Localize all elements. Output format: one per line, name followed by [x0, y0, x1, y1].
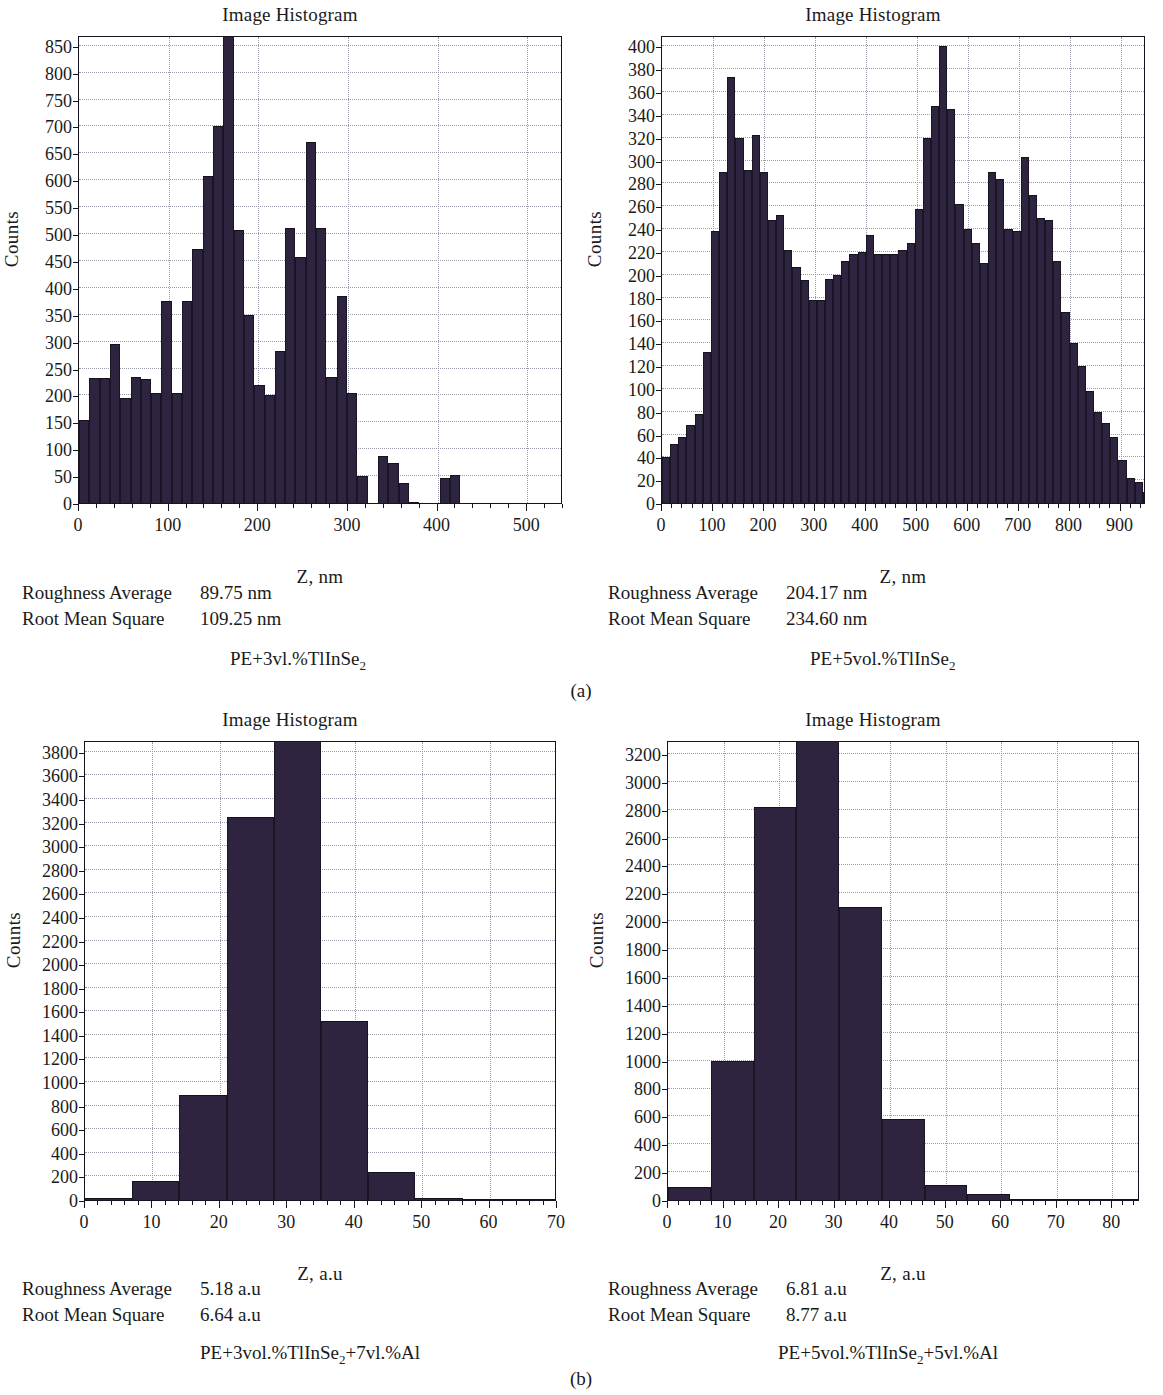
x-tick-major: [834, 1201, 835, 1208]
sample-name-tail: +5vl.%Al: [923, 1342, 998, 1363]
y-tick-mark: [79, 918, 84, 919]
y-tick-label: 3600: [42, 767, 78, 785]
y-tick-mark: [79, 942, 84, 943]
x-tick-minor: [702, 504, 703, 508]
x-tick-minor: [329, 504, 330, 508]
x-tick-label: 400: [423, 516, 450, 534]
y-tick-label: 200: [51, 1168, 78, 1186]
y-tick-label: 1000: [42, 1074, 78, 1092]
plot-title: Image Histogram: [0, 709, 580, 731]
x-tick-minor: [275, 504, 276, 508]
x-tick-major: [1000, 1201, 1001, 1208]
x-axis-ticks: 0100200300400500600700800900: [661, 516, 1145, 540]
histogram-bar: [996, 179, 1004, 503]
histogram-bar: [923, 138, 931, 503]
y-tick-mark: [662, 1062, 667, 1063]
x-tick-minor: [111, 1201, 112, 1205]
x-tick-label: 300: [800, 516, 827, 534]
stats-value-roughness-average: 204.17 nm: [786, 580, 867, 606]
y-tick-mark: [656, 344, 661, 345]
histogram-bar: [1110, 437, 1118, 503]
x-tick-minor: [773, 504, 774, 508]
histogram-bar: [668, 1187, 711, 1200]
y-tick-mark: [656, 47, 661, 48]
x-tick-major: [778, 1201, 779, 1208]
histogram-bar: [1053, 1199, 1096, 1200]
histogram-bar: [357, 476, 367, 503]
y-tick-mark: [79, 1154, 84, 1155]
y-tick-label: 100: [628, 381, 655, 399]
y-tick-label: 600: [634, 1108, 661, 1126]
histogram-bar: [931, 106, 939, 503]
y-tick-label: 1400: [625, 997, 661, 1015]
y-axis-tickmarks: [655, 36, 661, 504]
y-tick-mark: [656, 276, 661, 277]
gridline-horizontal: [668, 948, 1138, 949]
y-tick-label: 40: [637, 449, 655, 467]
stats-row-root-mean-square: Root Mean Square 8.77 a.u: [608, 1302, 847, 1328]
x-tick-minor: [956, 504, 957, 508]
x-tick-major: [151, 1201, 152, 1208]
x-tick-major: [814, 504, 815, 511]
x-tick-label: 700: [1004, 516, 1031, 534]
y-tick-mark: [73, 74, 78, 75]
x-tick-minor: [1011, 1201, 1012, 1205]
y-tick-mark: [656, 139, 661, 140]
x-tick-minor: [293, 504, 294, 508]
x-tick-minor: [987, 504, 988, 508]
gridline-horizontal: [668, 809, 1138, 810]
y-tick-mark: [662, 811, 667, 812]
histogram-bar: [1004, 229, 1012, 503]
x-tick-minor: [977, 504, 978, 508]
y-tick-label: 200: [628, 267, 655, 285]
histogram-bar: [132, 1181, 179, 1200]
x-tick-major: [489, 1201, 490, 1208]
x-axis-tickmarks: [78, 504, 562, 514]
y-tick-mark: [656, 207, 661, 208]
gridline-horizontal: [662, 68, 1144, 69]
y-tick-label: 280: [628, 175, 655, 193]
y-tick-mark: [73, 101, 78, 102]
histogram-bar: [1061, 312, 1069, 503]
histogram-bar: [89, 378, 99, 503]
histogram-bar: [898, 250, 906, 503]
histogram-bar: [776, 215, 784, 503]
histogram-bar: [866, 235, 874, 503]
x-tick-major: [865, 504, 866, 511]
y-axis-ticks: 0200400600800100012001400160018002000220…: [603, 741, 661, 1201]
x-tick-minor: [435, 1201, 436, 1205]
x-tick-label: 400: [851, 516, 878, 534]
x-tick-label: 300: [333, 516, 360, 534]
gridline-vertical: [527, 37, 528, 503]
histogram-bar: [326, 377, 336, 503]
x-tick-minor: [124, 1201, 125, 1205]
x-tick-minor: [543, 1201, 544, 1205]
gridline-vertical: [422, 742, 423, 1200]
x-axis-tickmarks: [661, 504, 1145, 514]
y-tick-mark: [662, 1173, 667, 1174]
x-tick-minor: [1038, 504, 1039, 508]
x-tick-minor: [508, 504, 509, 508]
x-tick-minor: [734, 1201, 735, 1205]
histogram-bar: [727, 77, 735, 503]
x-tick-minor: [856, 1201, 857, 1205]
x-tick-label: 800: [1055, 516, 1082, 534]
histogram-bar: [703, 352, 711, 503]
histogram-bar: [234, 230, 244, 503]
x-tick-minor: [114, 504, 115, 508]
x-tick-label: 30: [825, 1213, 843, 1231]
sample-name-bottom-right: PE+5vol.%TlInSe2+5vl.%Al: [778, 1342, 998, 1368]
y-tick-mark: [662, 978, 667, 979]
histogram-bar: [939, 46, 947, 503]
y-tick-label: 20: [637, 472, 655, 490]
stats-row-roughness-average: Roughness Average 89.75 nm: [22, 580, 281, 606]
y-axis-tickmarks: [661, 741, 667, 1201]
y-tick-label: 650: [45, 145, 72, 163]
histogram-bar: [1053, 261, 1061, 503]
x-tick-minor: [246, 1201, 247, 1205]
y-tick-label: 550: [45, 199, 72, 217]
histogram-bar: [378, 456, 388, 503]
histogram-bar: [825, 279, 833, 503]
gridline-horizontal: [79, 206, 561, 207]
y-tick-mark: [656, 504, 661, 505]
